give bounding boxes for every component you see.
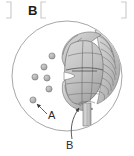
bracket-close [121, 2, 126, 18]
spore-granule [30, 97, 36, 103]
bracket-open [41, 2, 46, 18]
figure-panel: B [0, 0, 134, 156]
spore-granule [46, 86, 52, 92]
spore-granule [44, 75, 50, 81]
spore-granule [41, 64, 47, 70]
panel-bracket [6, 2, 126, 18]
callout-b-label: B [66, 139, 73, 151]
figure-canvas: B [0, 0, 134, 156]
panel-label: B [28, 3, 37, 18]
callout-a-label: A [48, 109, 56, 121]
spore-granule [49, 53, 55, 59]
spore-granule [32, 74, 38, 80]
bracket-left-tail [6, 2, 11, 18]
